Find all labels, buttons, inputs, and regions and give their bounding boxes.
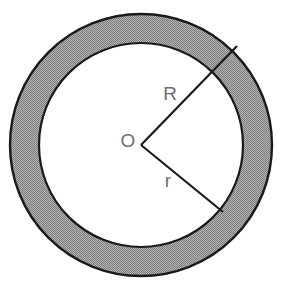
label-inner-radius: r bbox=[165, 170, 172, 191]
label-outer-radius: R bbox=[163, 83, 177, 104]
annulus-diagram-canvas: R O r bbox=[0, 0, 287, 296]
annulus-figure: R O r bbox=[0, 0, 287, 296]
label-center-point: O bbox=[121, 130, 136, 151]
